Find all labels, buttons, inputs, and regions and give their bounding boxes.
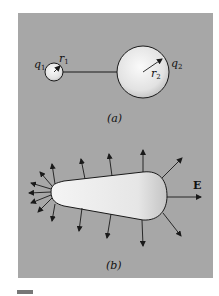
caption-b: (b) — [106, 259, 122, 272]
figure-caption-fragment — [17, 290, 33, 294]
label-field-E: E — [193, 179, 201, 192]
figure-drawing: q1 r1 q2 r2 (a) — [0, 0, 219, 296]
teardrop-conductor — [51, 172, 167, 220]
label-r1: r1 — [59, 52, 69, 66]
label-q2: q2 — [171, 57, 183, 71]
panel-a: q1 r1 q2 r2 (a) — [34, 46, 183, 125]
panel-b: E (b) — [29, 150, 201, 272]
label-q1: q1 — [34, 58, 46, 72]
caption-a: (a) — [107, 112, 122, 125]
